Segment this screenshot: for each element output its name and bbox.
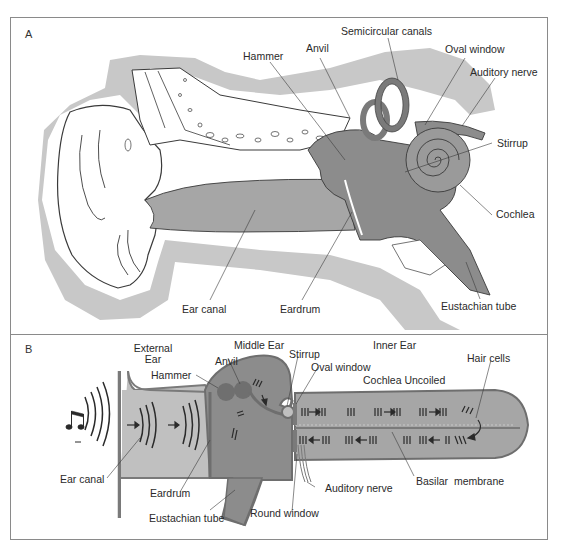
label-external-ear-line2: Ear [128,353,178,365]
music-note-icon [66,411,84,442]
hammer-shape [217,383,235,401]
label-cochlea-uncoiled: Cochlea Uncoiled [363,374,445,386]
label-anvil: Anvil [306,42,329,54]
panel-a-art [38,38,495,330]
label-auditory-nerve-b: Auditory nerve [325,482,393,494]
cochlea-shape [406,128,470,192]
label-oval-window: Oval window [445,43,505,55]
label-eardrum-b: Eardrum [150,487,190,499]
label-hammer: Hammer [243,50,283,62]
anvil-shape [234,381,252,399]
label-hammer-b: Hammer [151,369,191,381]
label-oval-window-b: Oval window [311,361,371,373]
stirrup-shape [282,406,294,418]
label-stirrup: Stirrup [497,137,528,149]
ear-canal-shape [145,179,355,232]
label-ear-canal-b: Ear canal [60,473,104,485]
label-basilar-membrane: Basilar membrane [416,475,504,487]
label-hair-cells: Hair cells [467,352,510,364]
label-anvil-b: Anvil [215,355,238,367]
panel-b-art [66,355,528,525]
sound-waves-outside [85,382,110,446]
label-round-window: Round window [250,507,319,519]
label-auditory-nerve: Auditory nerve [470,66,538,78]
oval-window-rect [293,403,297,425]
round-window-rect [293,430,297,452]
label-stirrup-b: Stirrup [289,348,320,360]
label-eardrum: Eardrum [280,303,320,315]
label-inner-ear: Inner Ear [373,339,416,351]
label-middle-ear: Middle Ear [234,339,284,351]
label-eustachian-tube: Eustachian tube [441,300,516,312]
panel-letter-b: B [25,343,32,355]
label-ear-canal: Ear canal [182,303,226,315]
label-eustachian-tube-b: Eustachian tube [149,512,224,524]
label-cochlea: Cochlea [496,208,535,220]
panel-letter-a: A [25,28,32,40]
label-semicircular-canals: Semicircular canals [341,25,432,37]
